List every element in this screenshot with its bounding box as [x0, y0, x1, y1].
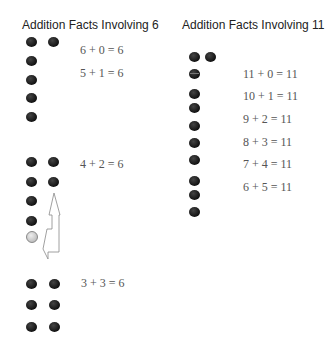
dot [189, 138, 200, 148]
dot [49, 279, 60, 289]
dot [189, 103, 200, 113]
equation: 8 + 3 = 11 [243, 135, 292, 150]
equation: 7 + 4 = 11 [243, 157, 292, 172]
dot [26, 322, 37, 332]
dot [26, 300, 37, 310]
dot [205, 52, 216, 62]
dot [189, 176, 200, 186]
dot [189, 207, 200, 217]
equation: 3 + 3 = 6 [81, 276, 125, 291]
dot [189, 190, 200, 200]
arrow-icon [0, 0, 328, 348]
equation: 11 + 0 = 11 [243, 67, 298, 82]
dot [189, 89, 200, 99]
dot [189, 155, 200, 165]
equation: 10 + 1 = 11 [243, 89, 298, 104]
dot [49, 322, 60, 332]
equation: 9 + 2 = 11 [243, 112, 292, 127]
equation: 6 + 5 = 11 [243, 180, 292, 195]
dot [189, 69, 200, 79]
dot [49, 300, 60, 310]
dot [26, 279, 37, 289]
dot [189, 121, 200, 131]
dot [189, 52, 200, 62]
